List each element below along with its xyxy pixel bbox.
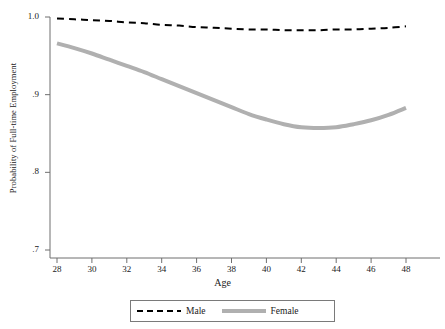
x-tick-label: 42 [286,264,316,274]
legend-row: MaleFemale [131,301,334,321]
chart-legend: MaleFemale [130,300,335,322]
y-axis-title: Probability of Full-time Employment [6,8,20,248]
x-tick-label: 30 [77,264,107,274]
y-tick-label: .7 [13,244,39,254]
legend-label: Male [186,306,206,316]
legend-key-female-icon [222,306,266,316]
x-tick-label: 34 [147,264,177,274]
x-axis-title: Age [0,277,445,288]
chart-figure: Probability of Full-time Employment Age … [0,0,445,329]
x-tick-label: 36 [182,264,212,274]
chart-axes [45,17,440,263]
x-tick-label: 28 [42,264,72,274]
x-tick-label: 40 [251,264,281,274]
x-tick-label: 46 [356,264,386,274]
x-tick-label: 48 [391,264,421,274]
x-tick-label: 32 [112,264,142,274]
x-tick-label: 38 [217,264,247,274]
y-tick-label: .8 [13,166,39,176]
y-tick-label: .9 [13,89,39,99]
y-tick-label: 1.0 [13,11,39,21]
x-tick-label: 44 [321,264,351,274]
chart-series [57,19,406,129]
legend-entry-female: Female [222,306,299,316]
series-line-female [57,43,406,128]
series-line-male [57,19,406,31]
legend-key-male-icon [137,306,181,316]
legend-label: Female [271,306,299,316]
legend-entry-male: Male [137,306,206,316]
